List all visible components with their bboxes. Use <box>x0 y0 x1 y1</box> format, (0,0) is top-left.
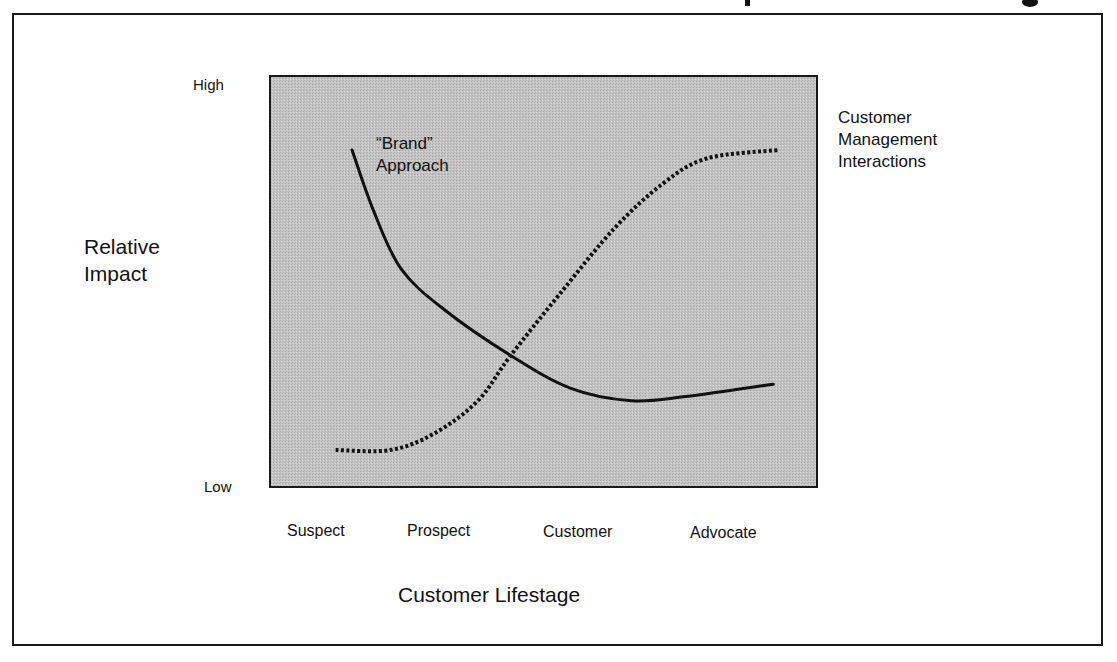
x-axis-title: Customer Lifestage <box>398 583 580 607</box>
cmi-label-line-2: Management <box>838 129 937 151</box>
cmi-label-line-3: Interactions <box>838 151 937 173</box>
x-tick-prospect: Prospect <box>407 522 470 540</box>
x-tick-customer: Customer <box>543 523 612 541</box>
y-axis-label-line-1: Relative <box>84 233 224 260</box>
chart-plot <box>0 0 1117 662</box>
y-axis-label-line-2: Impact <box>84 260 224 287</box>
brand-approach-label-line-2: Approach <box>376 155 449 177</box>
brand-approach-label: “Brand” Approach <box>376 133 449 177</box>
y-axis-label: Relative Impact <box>84 233 224 287</box>
cmi-label-line-1: Customer <box>838 107 937 129</box>
y-tick-high: High <box>193 76 224 93</box>
x-tick-suspect: Suspect <box>287 522 345 540</box>
brand-approach-label-line-1: “Brand” <box>376 133 449 155</box>
customer-management-interactions-label: Customer Management Interactions <box>838 107 937 173</box>
plot-area <box>270 76 817 487</box>
y-tick-low: Low <box>204 478 232 495</box>
x-tick-advocate: Advocate <box>690 524 757 542</box>
